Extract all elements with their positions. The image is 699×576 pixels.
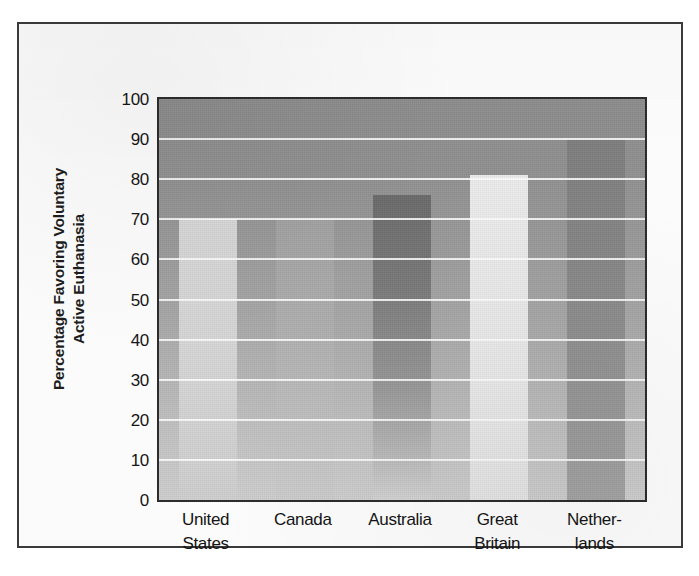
bar-canada[interactable]: [276, 219, 334, 500]
bar-australia[interactable]: [373, 195, 431, 500]
gridline-20: [159, 419, 645, 421]
x-label-united-states: UnitedStates: [157, 508, 254, 556]
plot-area: [157, 97, 647, 502]
gridline-70: [159, 218, 645, 220]
gridline-10: [159, 459, 645, 461]
gridline-90: [159, 138, 645, 140]
y-axis-title: Percentage Favoring Voluntary Active Eut…: [47, 79, 91, 479]
y-tick-label-10: 10: [97, 451, 149, 468]
gridline-30: [159, 379, 645, 381]
y-tick-label-20: 20: [97, 411, 149, 428]
x-label-line: States: [157, 532, 254, 556]
y-tick-label-60: 60: [97, 251, 149, 268]
x-label-line: Australia: [351, 508, 448, 532]
gridline-50: [159, 299, 645, 301]
gridline-40: [159, 339, 645, 341]
x-label-line: United: [157, 508, 254, 532]
y-tick-label-50: 50: [97, 291, 149, 308]
x-label-canada: Canada: [254, 508, 351, 532]
y-tick-label-70: 70: [97, 211, 149, 228]
gridline-80: [159, 178, 645, 180]
bar-united-states[interactable]: [179, 219, 237, 500]
y-tick-label-100: 100: [97, 91, 149, 108]
y-tick-label-0: 0: [97, 492, 149, 509]
y-axis-tick-labels: 0102030405060708090100: [97, 97, 149, 502]
y-tick-label-90: 90: [97, 131, 149, 148]
y-axis-title-line-1: Percentage Favoring Voluntary: [49, 168, 69, 390]
y-tick-label-40: 40: [97, 331, 149, 348]
figure-frame: Percentage Favoring Voluntary Active Eut…: [17, 22, 683, 548]
x-label-line: Canada: [254, 508, 351, 532]
x-axis-category-labels: UnitedStatesCanadaAustraliaGreatBritainN…: [157, 508, 647, 564]
gridline-60: [159, 258, 645, 260]
x-label-line: Britain: [449, 532, 546, 556]
bar-great-britain[interactable]: [470, 175, 528, 500]
y-tick-label-80: 80: [97, 171, 149, 188]
x-label-line: lands: [546, 532, 643, 556]
x-label-line: Nether-: [546, 508, 643, 532]
y-axis-title-line-2: Active Euthanasia: [69, 168, 89, 390]
x-label-great-britain: GreatBritain: [449, 508, 546, 556]
bar-netherlands[interactable]: [567, 139, 625, 500]
x-label-netherlands: Nether-lands: [546, 508, 643, 556]
x-label-australia: Australia: [351, 508, 448, 532]
x-label-line: Great: [449, 508, 546, 532]
y-tick-label-30: 30: [97, 371, 149, 388]
